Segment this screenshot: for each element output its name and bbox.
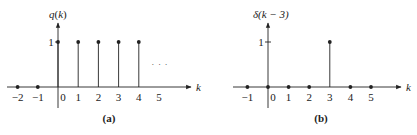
stem-dot: [307, 85, 311, 89]
stem-dot: [137, 40, 141, 44]
stem-dot: [117, 40, 121, 44]
y-axis-label: q(k): [49, 8, 67, 21]
caption-a: (a): [103, 112, 116, 125]
stem-dot: [76, 40, 80, 44]
x-tick-label: 5: [368, 91, 374, 103]
stem-dot: [287, 85, 291, 89]
x-axis-label: k: [406, 81, 412, 93]
panel-a-unit-step: q(k) 1 k · · · −2−1012345 (a): [7, 8, 202, 125]
x-axis-label: k: [196, 81, 202, 93]
x-tick-labels: −2−1012345: [12, 91, 163, 103]
stem-dot: [56, 40, 60, 44]
stem-dot: [266, 85, 270, 89]
y-axis-label: δ(k − 3): [253, 8, 289, 21]
x-tick-label: 2: [306, 91, 312, 103]
stem-dot: [246, 85, 250, 89]
level-label: 1: [258, 36, 264, 48]
x-tick-label: −1: [242, 91, 254, 103]
panel-b-shifted-impulse: δ(k − 3) 1 k −1012345 (b): [233, 8, 412, 125]
stem-dot: [16, 85, 20, 89]
stem-series-a: [16, 40, 141, 89]
x-tick-label: 1: [286, 91, 292, 103]
x-tick-label: 2: [96, 91, 102, 103]
x-tick-label: 1: [75, 91, 81, 103]
stem-dot: [36, 85, 40, 89]
stem-dot: [97, 40, 101, 44]
stem-dot: [369, 85, 373, 89]
x-tick-label: 4: [136, 91, 142, 103]
x-tick-label: 3: [116, 91, 122, 103]
x-tick-label: 0: [60, 91, 66, 103]
x-tick-labels: −1012345: [242, 91, 375, 103]
caption-b: (b): [314, 112, 328, 125]
x-tick-label: 5: [156, 91, 162, 103]
level-label: 1: [48, 36, 54, 48]
figure: q(k) 1 k · · · −2−1012345 (a) δ(k − 3) 1…: [0, 0, 417, 135]
stem-series-b: [246, 40, 373, 89]
x-tick-label: 0: [270, 91, 276, 103]
x-tick-label: 3: [327, 91, 333, 103]
x-tick-label: −2: [12, 91, 24, 103]
ellipsis: · · ·: [152, 60, 169, 69]
stem-dot: [328, 40, 332, 44]
stem-dot: [349, 85, 353, 89]
x-tick-label: 4: [348, 91, 354, 103]
x-tick-label: −1: [32, 91, 44, 103]
